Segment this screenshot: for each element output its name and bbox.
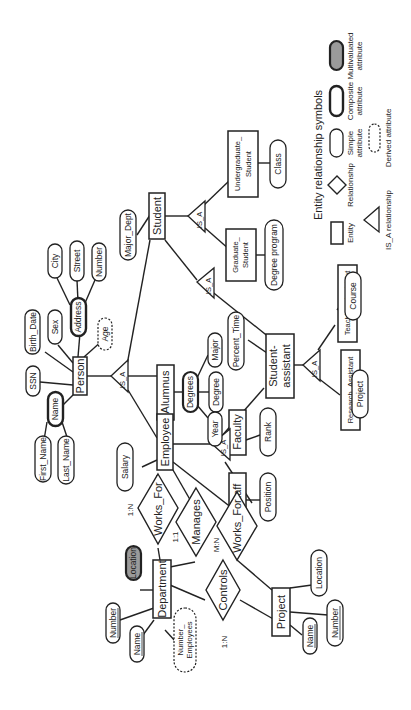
entity-student: Student [149,193,165,239]
attribute-dept-number: Number [106,603,120,643]
svg-text:attribute: attribute [355,128,364,157]
attribute-age-derived: Age [98,318,112,350]
attribute-proj-location: Location [311,550,327,596]
svg-text:Project: Project [355,380,365,407]
svg-text:City: City [50,253,60,268]
entity-person: Person [73,357,87,395]
svg-text:Relationship: Relationship [346,162,355,207]
attribute-address-composite: Address [71,298,86,336]
svg-text:Student-: Student- [267,345,279,387]
legend-isa-relationship: IS_A relationship [364,189,393,250]
legend-entity: Entity [331,222,355,244]
svg-text:Rank: Rank [263,421,273,442]
attribute-major-dept: Major_Dept [120,210,136,260]
attribute-name-composite: Name [48,392,63,426]
svg-text:Name: Name [50,397,60,420]
svg-text:Salary: Salary [120,454,130,479]
svg-text:IS_A relationship: IS_A relationship [384,189,393,250]
svg-text:Location: Location [314,557,324,589]
attribute-dept-name: Name [130,626,144,662]
svg-text:Age: Age [100,326,110,341]
svg-text:SSN: SSN [28,372,38,389]
svg-text:Graduate_: Graduate_ [231,236,240,272]
attribute-dept-num-employees-derived: Number_ Employees [174,608,196,672]
svg-text:attribute: attribute [355,41,364,70]
svg-text:Student: Student [244,150,253,177]
svg-text:Student: Student [151,197,163,235]
svg-text:Year: Year [210,420,220,437]
entity-employee: Employee [157,414,173,470]
relationship-manages: Manages [176,488,216,556]
svg-text:Alumnus: Alumnus [159,370,171,413]
svg-text:IS_A: IS_A [195,212,204,228]
svg-text:Degree program: Degree program [269,224,279,286]
svg-text:IS_A: IS_A [118,372,127,388]
svg-text:Course: Course [348,282,358,310]
svg-text:1:N: 1:N [126,504,135,517]
svg-text:Controls: Controls [217,569,229,610]
svg-text:First_Name: First_Name [38,437,48,481]
svg-text:Undergraduate_: Undergraduate_ [233,136,242,191]
attribute-last-name: Last_Name [58,436,74,484]
svg-text:Class: Class [273,153,283,174]
er-diagram: Person Student Alumnus Employee Faculty … [0,0,411,710]
legend-simple-attribute: Simple attribute [330,128,364,157]
legend-title: Entity relationship symbols [312,89,324,220]
attribute-year: Year [208,412,222,446]
attribute-sex: Sex [48,310,62,344]
entity-undergraduate-student: Undergraduate_ Student [228,131,258,197]
attribute-first-name: First_Name [35,436,51,482]
svg-text:Number: Number [108,608,118,638]
svg-text:Major_Dept: Major_Dept [123,212,133,257]
attribute-proj-name: Name [303,618,317,654]
isa-student-grad: IS_A [188,201,205,232]
isa-person: IS_A [111,360,128,392]
svg-text:IS_A: IS_A [204,278,213,294]
isa-student-assistant-parent: IS_A [197,268,214,298]
entity-student-assistant: Student- assistant [266,334,294,398]
svg-text:Degrees: Degrees [185,376,195,408]
attribute-degree-program: Degree program [265,220,283,290]
svg-text:IS_A: IS_A [310,361,319,377]
attribute-birth-date: Birth_Date [25,310,40,354]
svg-text:Department: Department [156,560,168,617]
attribute-dept-location-multivalued: Location [126,546,141,580]
svg-text:Address: Address [73,301,83,332]
entity-faculty: Faculty [229,410,246,455]
attribute-city: City [48,244,62,278]
svg-text:Employees: Employees [185,621,194,658]
attribute-street: Street [70,241,84,281]
svg-text:Works_For: Works_For [231,499,243,553]
legend-composite-attribute: Composite attribute [330,81,364,120]
svg-text:Street: Street [72,249,82,272]
svg-text:Multivaluated: Multivaluated [346,32,355,79]
svg-text:Position: Position [263,482,273,513]
attribute-degree: Degree [209,372,223,412]
attribute-ssn: SSN [26,366,40,396]
legend-derived-attribute: Derived attribute [369,108,393,167]
attribute-percent-time: Percent_Time [228,312,244,370]
svg-text:Percent_Time: Percent_Time [231,314,241,367]
svg-text:Composite: Composite [346,81,355,120]
attribute-project: Project [352,370,368,418]
svg-text:Number: Number [94,247,104,277]
attribute-degrees-multivalued: Degrees [183,372,198,412]
svg-text:Name: Name [132,632,142,655]
attribute-rank: Rank [260,408,276,456]
attribute-major: Major [208,333,222,367]
svg-text:Degree: Degree [211,378,221,406]
svg-text:Major: Major [210,339,220,360]
svg-text:Project: Project [275,595,287,629]
isa-student-assistant: IS_A [303,350,320,381]
attribute-position: Position [260,473,276,521]
svg-text:Number: Number [330,608,340,638]
svg-text:Location: Location [128,547,138,579]
attribute-proj-number: Number [327,600,343,646]
entity-graduate-student: Graduate_ Student [226,229,256,281]
svg-text:1:1: 1:1 [171,531,180,543]
svg-text:assistant: assistant [280,344,292,387]
legend: Entity relationship symbols Entity Relat… [312,32,393,250]
svg-text:Birth_Date: Birth_Date [28,312,38,352]
svg-text:Name: Name [305,624,315,647]
svg-text:Derived attribute: Derived attribute [384,108,393,167]
